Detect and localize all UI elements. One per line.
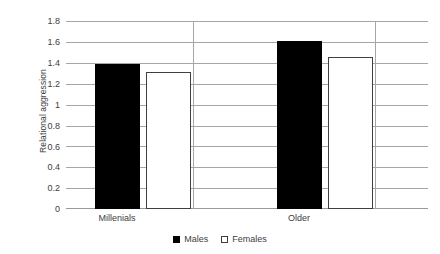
bar-millenials-males xyxy=(95,64,140,209)
y-tick-label: 0.2 xyxy=(20,183,60,193)
legend-label-males: Males xyxy=(184,234,208,244)
category-label-millenials: Millenials xyxy=(57,213,177,223)
y-tick-label: 0 xyxy=(20,204,60,214)
bar-chart: Relational aggression 1.8 1.6 1.4 1.2 1 … xyxy=(0,0,440,254)
y-tick-label: 1.4 xyxy=(20,58,60,68)
y-tick-label: 1.8 xyxy=(20,16,60,26)
outlined-square-icon xyxy=(221,236,228,243)
bar-older-males xyxy=(277,41,322,209)
filled-square-icon xyxy=(173,236,180,243)
category-label-older: Older xyxy=(239,213,359,223)
legend-label-females: Females xyxy=(232,234,267,244)
chart-legend: Males Females xyxy=(0,234,440,244)
gridline xyxy=(66,42,428,43)
legend-entry-females: Females xyxy=(221,234,267,244)
gridline xyxy=(66,21,428,22)
y-tick-label: 1 xyxy=(20,100,60,110)
y-tick-label: 0.4 xyxy=(20,162,60,172)
legend-entry-males: Males xyxy=(173,234,208,244)
y-tick-label: 1.2 xyxy=(20,79,60,89)
category-separator xyxy=(193,21,194,209)
y-tick-label: 1.6 xyxy=(20,37,60,47)
y-tick-label: 0.8 xyxy=(20,121,60,131)
bar-older-females xyxy=(328,57,373,209)
y-tick-label: 0.6 xyxy=(20,142,60,152)
plot-area xyxy=(66,21,428,209)
category-separator xyxy=(375,21,376,209)
bar-millenials-females xyxy=(146,72,191,209)
